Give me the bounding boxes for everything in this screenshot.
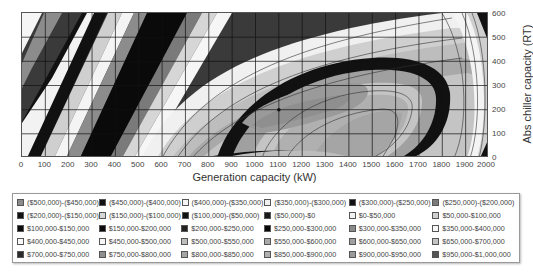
x-tick: 1300 [316, 160, 334, 169]
legend-label: ($250,000)-($200,000) [442, 198, 514, 207]
legend-item: ($300,000)-($250,000) [349, 198, 433, 207]
legend-label: ($300,000)-($250,000) [359, 198, 431, 207]
y-tick: 500 [492, 33, 505, 42]
legend-item: $500,000-$550,000 [181, 237, 264, 246]
legend-item: $800,000-$850,000 [181, 250, 264, 259]
legend-swatch-icon [264, 199, 271, 206]
x-tick: 700 [178, 160, 191, 169]
x-tick: 600 [154, 160, 167, 169]
x-tick: 900 [224, 160, 237, 169]
legend-label: $100,000-$150,000 [27, 224, 89, 233]
legend-swatch-icon [99, 212, 106, 219]
legend-swatch-icon [349, 251, 356, 258]
legend-swatch-icon [432, 251, 439, 258]
legend-swatch-icon [17, 225, 24, 232]
legend-swatch-icon [17, 251, 24, 258]
legend-swatch-icon [181, 238, 188, 245]
legend-label: $300,000-$350,000 [359, 224, 421, 233]
contour-plot-area [21, 12, 488, 157]
legend-row: $100,000-$150,000 $150,000-$200,000 $200… [17, 222, 516, 235]
legend-row: $400,000-$450,000 $450,000-$500,000 $500… [17, 235, 516, 248]
legend-item: $850,000-$900,000 [264, 250, 349, 259]
legend-label: $800,000-$850,000 [191, 250, 253, 259]
legend-label: $350,000-$400,000 [442, 224, 504, 233]
legend-label: $450,000-$500,000 [109, 237, 171, 246]
legend-swatch-icon [17, 238, 24, 245]
legend-swatch-icon [264, 251, 271, 258]
legend-label: $950,000-$1,000,000 [442, 250, 510, 259]
legend-swatch-icon [99, 251, 106, 258]
legend-label: $200,000-$250,000 [191, 224, 253, 233]
x-axis-label: Generation capacity (kW) [0, 171, 509, 183]
x-tick: 1900 [456, 160, 474, 169]
y-tick: 600 [492, 9, 505, 18]
legend-row: $700,000-$750,000 $750,000-$800,000 $800… [17, 248, 516, 261]
legend-item: ($500,000)-($450,000) [17, 198, 99, 207]
legend-label: ($200,000)-($150,000) [27, 211, 99, 220]
legend-label: $750,000-$800,000 [109, 250, 171, 259]
legend-item: $700,000-$750,000 [17, 250, 99, 259]
legend-item: ($150,000)-($100,000) [99, 211, 182, 220]
legend-swatch-icon [181, 251, 188, 258]
x-tick: 400 [108, 160, 121, 169]
legend-label: ($100,000)-($50,000) [192, 211, 260, 220]
legend-label: $400,000-$450,000 [27, 237, 89, 246]
legend-label: ($400,000)-($350,000) [192, 198, 264, 207]
x-tick: 200 [61, 160, 74, 169]
legend-item: $200,000-$250,000 [181, 224, 264, 233]
y-tick: 100 [492, 129, 505, 138]
legend-item: ($100,000)-($50,000) [182, 211, 265, 220]
legend-item: ($50,000)-$0 [264, 211, 349, 220]
legend-label: $600,000-$650,000 [359, 237, 421, 246]
legend-label: $850,000-$900,000 [274, 250, 336, 259]
legend-label: ($500,000)-($450,000) [27, 198, 99, 207]
legend-swatch-icon [17, 212, 24, 219]
x-tick: 100 [38, 160, 51, 169]
y-tick: 400 [492, 57, 505, 66]
x-tick: 500 [131, 160, 144, 169]
legend-item: ($450,000)-($400,000) [99, 198, 182, 207]
legend-item: $300,000-$350,000 [349, 224, 433, 233]
y-tick: 200 [492, 105, 505, 114]
legend-swatch-icon [432, 199, 439, 206]
legend-swatch-icon [181, 225, 188, 232]
legend-item: ($350,000)-($300,000) [264, 198, 349, 207]
legend-row: ($500,000)-($450,000) ($450,000)-($400,0… [17, 196, 516, 209]
legend-swatch-icon [349, 225, 356, 232]
x-tick: 1400 [339, 160, 357, 169]
legend-label: $700,000-$750,000 [27, 250, 89, 259]
legend-label: ($450,000)-($400,000) [109, 198, 181, 207]
legend-label: ($50,000)-$0 [274, 211, 315, 220]
legend-swatch-icon [182, 199, 189, 206]
legend-item: $0-$50,000 [349, 211, 433, 220]
x-tick: 0 [19, 160, 23, 169]
legend-item: $650,000-$700,000 [432, 237, 516, 246]
legend-label: $250,000-$300,000 [274, 224, 336, 233]
legend-label: $900,000-$950,000 [359, 250, 421, 259]
legend-row: ($200,000)-($150,000) ($150,000)-($100,0… [17, 209, 516, 222]
legend-swatch-icon [264, 225, 271, 232]
x-tick: 1100 [269, 160, 286, 169]
legend-item: $900,000-$950,000 [349, 250, 433, 259]
legend-label: $50,000-$100,000 [442, 211, 500, 220]
legend-swatch-icon [432, 212, 439, 219]
legend-swatch-icon [432, 238, 439, 245]
legend-item: ($400,000)-($350,000) [182, 198, 265, 207]
x-tick: 1600 [386, 160, 404, 169]
contour-svg [22, 13, 488, 157]
x-tick: 800 [201, 160, 214, 169]
x-tick: 300 [84, 160, 97, 169]
x-tick: 1000 [246, 160, 264, 169]
legend-swatch-icon [17, 199, 24, 206]
legend-swatch-icon [99, 238, 106, 245]
x-tick: 1500 [362, 160, 380, 169]
legend-swatch-icon [349, 199, 356, 206]
legend-label: ($350,000)-($300,000) [274, 198, 346, 207]
legend-item: $150,000-$200,000 [99, 224, 182, 233]
legend-item: ($250,000)-($200,000) [432, 198, 516, 207]
y-tick: 0 [492, 153, 496, 162]
legend-item: $350,000-$400,000 [432, 224, 516, 233]
x-tick: 1700 [409, 160, 427, 169]
legend-label: $150,000-$200,000 [109, 224, 171, 233]
legend-label: $650,000-$700,000 [442, 237, 504, 246]
